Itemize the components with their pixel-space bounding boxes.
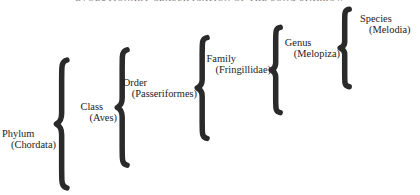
rank-species-label: Species [360, 13, 411, 25]
rank-phylum-text: Phylum (Chordata) [2, 128, 56, 151]
rank-order-label: Order [123, 77, 197, 89]
rank-genus-taxon: (Melopiza) [285, 48, 340, 60]
rank-genus-label: Genus [285, 37, 340, 49]
rank-species-text: Species (Melodia) [360, 13, 411, 36]
rank-order-taxon: (Passeriformes) [123, 88, 197, 100]
rank-genus-text: Genus (Melopiza) [285, 37, 340, 60]
rank-class: Class (Aves) [62, 96, 117, 124]
rank-class-label: Class [80, 101, 117, 113]
brace-phylum [55, 58, 69, 190]
rank-phylum-taxon: (Chordata) [2, 139, 56, 151]
rank-family-taxon: (Fringillidae) [207, 64, 271, 76]
rank-phylum: Phylum (Chordata) [0, 123, 56, 151]
rank-species-taxon: (Melodia) [360, 24, 411, 36]
rank-class-taxon: (Aves) [80, 112, 117, 124]
rank-genus: Genus (Melopiza) [278, 32, 340, 60]
rank-family-label: Family [207, 53, 271, 65]
rank-order: Order (Passeriformes) [122, 72, 197, 100]
rank-class-text: Class (Aves) [80, 101, 117, 124]
rank-family-text: Family (Fringillidae) [207, 53, 271, 76]
rank-family: Family (Fringillidae) [202, 48, 271, 76]
rank-species: Species (Melodia) [348, 8, 414, 36]
figure-title: Evolutionary Classification of the Song … [0, 0, 420, 3]
rank-phylum-label: Phylum [2, 128, 56, 140]
taxonomy-figure: Evolutionary Classification of the Song … [0, 0, 420, 195]
brace-class [116, 48, 129, 167]
rank-order-text: Order (Passeriformes) [123, 77, 197, 100]
